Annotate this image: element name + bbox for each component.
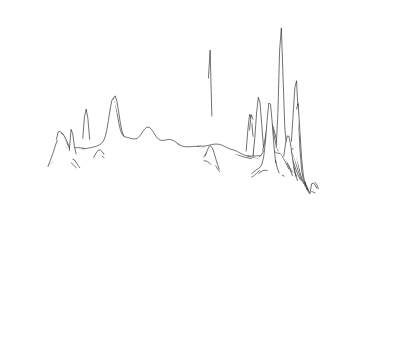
surface-plot-canvas: Three-dimensional hidden-line surface pl… xyxy=(0,0,415,363)
figure-root: Three-dimensional hidden-line surface pl… xyxy=(0,0,415,363)
plot-background xyxy=(0,0,415,363)
